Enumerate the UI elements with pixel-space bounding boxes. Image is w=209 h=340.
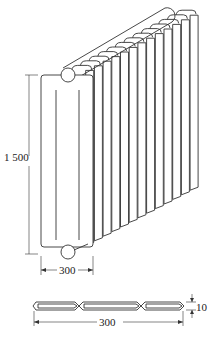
fin	[94, 66, 102, 241]
fin	[138, 43, 146, 218]
fin	[121, 52, 129, 227]
width-label: 300	[59, 264, 76, 276]
fin	[173, 24, 181, 199]
height-dimension: 1 500	[4, 75, 38, 254]
fin	[190, 15, 198, 190]
fin	[103, 61, 111, 236]
fin	[181, 20, 189, 195]
fin	[112, 57, 120, 232]
section-width-label: 300	[99, 316, 116, 328]
height-label: 1 500	[4, 151, 29, 163]
top-inlet-circle	[61, 68, 75, 82]
radiator-drawing: 1 500 300 10 300	[0, 0, 209, 340]
bottom-outlet-circle	[61, 245, 75, 259]
fin	[155, 34, 163, 209]
fin	[147, 38, 155, 213]
fin	[129, 47, 137, 222]
cross-section: 10 300	[33, 294, 208, 328]
front-panel	[41, 68, 93, 259]
fin	[164, 29, 172, 204]
thickness-label: 10	[196, 301, 208, 313]
